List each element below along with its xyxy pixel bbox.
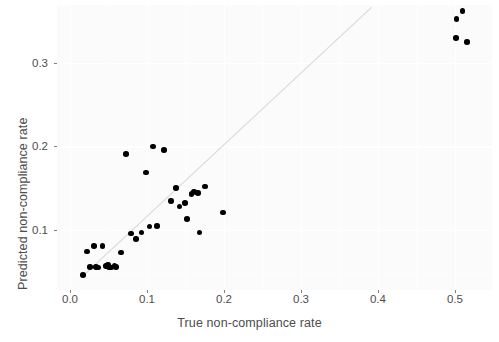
y-tick-mark (54, 230, 57, 231)
data-point (133, 236, 139, 242)
data-point (87, 264, 93, 270)
data-point (464, 39, 470, 45)
data-point (182, 200, 188, 206)
x-tick-label: 0.2 (204, 293, 244, 305)
data-point (143, 170, 149, 176)
data-point (453, 35, 459, 41)
x-tick-label: 0.1 (127, 293, 167, 305)
x-tick-label: 0.5 (435, 293, 475, 305)
scatter-plot-figure: 0.00.10.20.30.40.5 0.10.20.3 True non-co… (0, 0, 499, 342)
data-point (168, 198, 174, 204)
y-tick-mark (54, 63, 57, 64)
data-point (128, 231, 134, 237)
plot-panel (57, 5, 492, 290)
data-point (91, 243, 97, 249)
data-point (113, 264, 119, 270)
data-point (100, 243, 106, 249)
y-tick-mark (54, 146, 57, 147)
x-axis-title: True non-compliance rate (0, 316, 499, 330)
data-point (123, 151, 129, 157)
y-tick-label: 0.3 (8, 56, 48, 70)
data-point (118, 250, 124, 256)
data-point (184, 216, 190, 222)
data-point (80, 272, 86, 278)
data-point (202, 184, 208, 190)
data-point (95, 265, 101, 271)
data-point (154, 223, 160, 229)
x-tick-label: 0.4 (358, 293, 398, 305)
data-point (454, 16, 460, 22)
y-axis-title: Predicted non-compliance rate (16, 118, 30, 290)
identity-reference-line (57, 5, 492, 290)
x-tick-label: 0.0 (50, 293, 90, 305)
data-point (161, 147, 167, 153)
data-point (195, 190, 201, 196)
x-tick-label: 0.3 (281, 293, 321, 305)
